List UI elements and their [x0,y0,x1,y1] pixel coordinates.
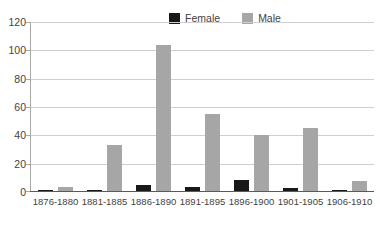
bars-layer [31,22,374,191]
bar-group-1881-1885 [80,22,129,191]
bar-female-1896-1900[interactable] [234,180,249,191]
y-tick-label-120: 120 [0,17,26,27]
bar-female-1881-1885[interactable] [87,190,102,191]
x-axis-labels: 1876-1880 1881-1885 1886-1890 1891-1895 … [31,196,374,208]
bar-female-1876-1880[interactable] [38,190,53,191]
bar-group-1901-1905 [276,22,325,191]
bar-male-1886-1890[interactable] [156,45,171,191]
bar-group-1896-1900 [227,22,276,191]
bar-male-1906-1910[interactable] [352,181,367,191]
y-tick-label-60: 60 [0,102,26,112]
y-tick-label-40: 40 [0,130,26,140]
bar-female-1891-1895[interactable] [185,187,200,191]
x-tick-label-1901-1905: 1901-1905 [276,196,325,208]
x-tick-label-1881-1885: 1881-1885 [80,196,129,208]
x-tick-label-1906-1910: 1906-1910 [325,196,374,208]
x-tick-label-1891-1895: 1891-1895 [178,196,227,208]
y-tick-label-80: 80 [0,74,26,84]
y-tick-label-100: 100 [0,45,26,55]
bar-male-1876-1880[interactable] [58,187,73,191]
bar-male-1881-1885[interactable] [107,145,122,191]
bar-female-1906-1910[interactable] [332,190,347,191]
bar-group-1906-1910 [325,22,374,191]
x-tick-label-1896-1900: 1896-1900 [227,196,276,208]
x-tick-label-1876-1880: 1876-1880 [31,196,80,208]
bar-chart: Female Male 0 20 40 60 80 100 120 [0,0,380,225]
y-tick-label-20: 20 [0,159,26,169]
bar-group-1876-1880 [31,22,80,191]
plot-area [30,22,374,192]
bar-male-1896-1900[interactable] [254,135,269,191]
bar-group-1886-1890 [129,22,178,191]
x-axis-line [30,191,374,192]
y-tick-label-0: 0 [0,187,26,197]
bar-female-1886-1890[interactable] [136,185,151,191]
x-tick-label-1886-1890: 1886-1890 [129,196,178,208]
bar-male-1901-1905[interactable] [303,128,318,191]
bar-female-1901-1905[interactable] [283,188,298,191]
bar-group-1891-1895 [178,22,227,191]
bar-male-1891-1895[interactable] [205,114,220,191]
